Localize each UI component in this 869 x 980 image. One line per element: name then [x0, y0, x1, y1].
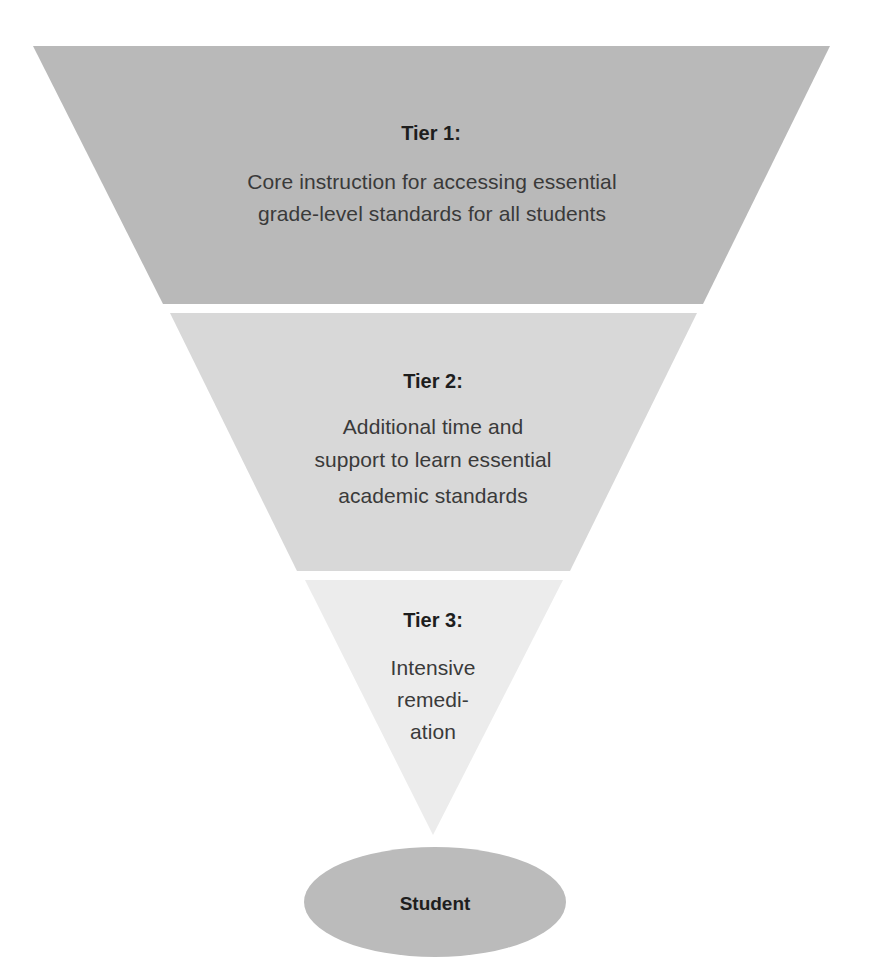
tier-2-trapezoid [170, 313, 697, 571]
tier-2-line-3: academic standards [338, 484, 528, 508]
tier-3-line-2: remedi- [397, 688, 469, 712]
tier-3-line-1: Intensive [391, 656, 476, 680]
student-label: Student [400, 893, 471, 915]
tier-1-line-2: grade-level standards for all students [258, 202, 606, 226]
tier-2-line-1: Additional time and [343, 415, 524, 439]
tier-1-title: Tier 1: [401, 122, 461, 145]
tier-1-line-1: Core instruction for accessing essential [247, 170, 616, 194]
tier-3-line-3: ation [410, 720, 456, 744]
tier-2-line-2: support to learn essential [314, 448, 551, 472]
rti-pyramid-diagram: Tier 1: Core instruction for accessing e… [0, 0, 869, 980]
tier-2-title: Tier 2: [403, 370, 463, 393]
tier-3-title: Tier 3: [403, 609, 463, 632]
